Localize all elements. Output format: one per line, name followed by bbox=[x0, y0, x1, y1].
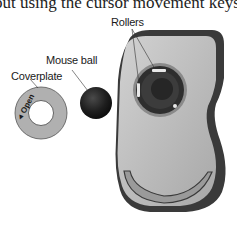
roller-left bbox=[137, 83, 140, 97]
leader-mouse-ball bbox=[72, 70, 88, 91]
label-mouse-ball: Mouse ball bbox=[46, 54, 97, 66]
label-coverplate: Coverplate bbox=[11, 70, 62, 82]
mouse-underside-figure: ◂ Open bbox=[0, 0, 237, 225]
roller-top bbox=[152, 69, 166, 72]
label-rollers: Rollers bbox=[111, 16, 144, 28]
ball-socket bbox=[133, 63, 187, 117]
roller-small bbox=[173, 104, 177, 108]
mouse-ball bbox=[80, 87, 112, 119]
